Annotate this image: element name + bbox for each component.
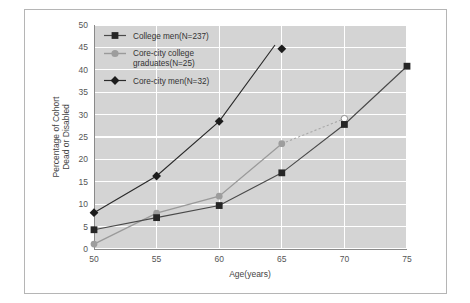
x-tick-label: 75 [402,254,412,264]
legend-label-college-men: College men(N=237) [133,32,209,41]
x-axis-title: Age(years) [229,269,271,279]
y-tick-label: 5 [83,222,88,232]
y-tick-label: 0 [83,244,88,254]
y-tick-label: 30 [79,110,89,120]
y-tick-label: 35 [79,87,89,97]
x-tick-label: 60 [214,254,224,264]
chart-page: 0 5 10 15 20 25 30 35 40 45 50 50 55 60 … [0,0,470,303]
legend-label-core-city-graduates-line2: graduates(N=25) [133,59,195,68]
y-tick-label: 15 [79,177,89,187]
y-axis-title-line2: Dead or Disabled [61,104,71,170]
x-tick-label: 55 [152,254,162,264]
legend-label-core-city-graduates-line1: Core-city college [133,49,194,58]
legend-circle-icon [111,50,118,57]
x-axis-tick-labels: 50 55 60 65 70 75 [89,254,412,264]
y-tick-label: 50 [79,20,89,30]
y-tick-label: 25 [79,132,89,142]
x-tick-label: 70 [340,254,350,264]
x-tick-label: 65 [277,254,287,264]
y-tick-label: 10 [79,199,89,209]
y-tick-label: 20 [79,154,89,164]
y-tick-label: 40 [79,65,89,75]
line-chart: 0 5 10 15 20 25 30 35 40 45 50 50 55 60 … [0,0,470,303]
y-tick-label: 45 [79,42,89,52]
x-tick-label: 50 [89,254,99,264]
legend-square-icon [112,32,119,39]
y-axis-title-line1: Percentage of Cohort [51,96,61,177]
legend-label-core-city-men: Core-city men(N=32) [133,77,209,86]
y-axis-tick-labels: 0 5 10 15 20 25 30 35 40 45 50 [79,20,89,254]
